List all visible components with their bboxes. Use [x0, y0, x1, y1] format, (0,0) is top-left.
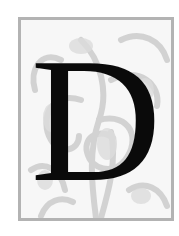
drop-cap-letter: D	[20, 20, 173, 218]
drop-cap-frame: D	[18, 17, 174, 221]
